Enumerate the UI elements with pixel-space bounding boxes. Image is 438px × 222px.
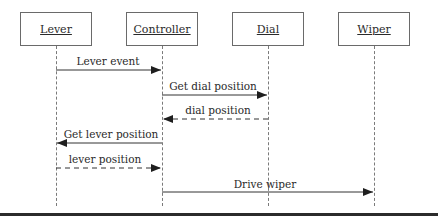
bottom-divider (0, 213, 438, 216)
message-label: lever position (69, 153, 142, 165)
message-label: Drive wiper (234, 178, 297, 190)
message-label: Get lever position (64, 128, 159, 140)
message-label: Lever event (76, 55, 139, 67)
message-label: Get dial position (169, 80, 257, 92)
message-label: dial position (185, 104, 251, 116)
